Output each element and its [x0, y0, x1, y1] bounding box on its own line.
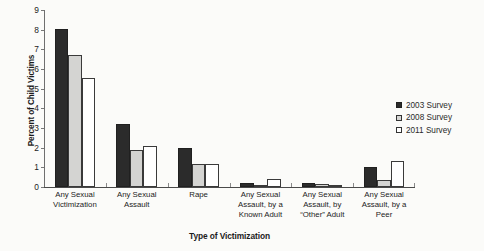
bar-group-0	[44, 10, 106, 187]
x-axis-line	[44, 187, 415, 188]
bar-2003-survey-3	[240, 183, 254, 187]
y-tick-label-8: 8	[23, 26, 39, 34]
bar-2011-survey-4	[329, 185, 343, 187]
category-label-4: Any SexualAssault, by“Other” Adult	[291, 190, 353, 220]
bar-2008-survey-2	[192, 164, 206, 187]
bar-group-2	[168, 10, 230, 187]
category-label-line: Any Sexual	[291, 190, 353, 200]
bar-2011-survey-5	[391, 161, 405, 187]
category-label-line: Victimization	[44, 200, 106, 210]
bar-group-4	[291, 10, 353, 187]
bar-group-3	[230, 10, 292, 187]
y-tick-label-1: 1	[23, 163, 39, 171]
y-axis-title: Percent of Child Victims	[27, 16, 36, 186]
category-label-line: Peer	[353, 210, 415, 220]
bar-2003-survey-2	[178, 148, 192, 187]
y-tick-label-6: 6	[23, 65, 39, 73]
category-label-line: Any Sexual	[230, 190, 292, 200]
legend-label-2: 2011 Survey	[406, 126, 451, 135]
bar-2008-survey-0	[68, 55, 82, 187]
bar-2008-survey-4	[315, 184, 329, 187]
y-tick-label-7: 7	[23, 45, 39, 53]
bar-group-1	[106, 10, 168, 187]
category-label-line: Any Sexual	[44, 190, 106, 200]
category-label-line: Any Sexual	[353, 190, 415, 200]
group-separator-2	[168, 183, 169, 187]
category-label-line: “Other” Adult	[291, 210, 353, 220]
legend-label-0: 2003 Survey	[406, 101, 452, 110]
y-tick-label-2: 2	[23, 144, 39, 152]
legend-item-2: 2011 Survey	[396, 124, 484, 136]
bar-2003-survey-0	[55, 29, 69, 187]
group-separator-3	[230, 183, 231, 187]
bar-2008-survey-3	[254, 185, 268, 187]
bars-layer	[44, 10, 415, 187]
legend-item-0: 2003 Survey	[396, 99, 484, 111]
group-separator-5	[353, 183, 354, 187]
chart-legend: 2003 Survey2008 Survey2011 Survey	[396, 99, 484, 137]
y-tick-label-0: 0	[23, 183, 39, 191]
bar-2011-survey-1	[143, 146, 157, 187]
y-tick-mark-0	[41, 187, 44, 188]
filled-gray-square-icon	[396, 115, 402, 121]
y-tick-label-9: 9	[23, 6, 39, 14]
y-tick-label-5: 5	[23, 85, 39, 93]
y-tick-label-4: 4	[23, 104, 39, 112]
bar-2011-survey-0	[82, 78, 96, 187]
category-label-line: Known Adult	[230, 210, 292, 220]
category-label-3: Any SexualAssault, by aKnown Adult	[230, 190, 292, 220]
bar-2011-survey-3	[267, 179, 281, 187]
bar-2003-survey-5	[364, 167, 378, 187]
category-label-line: Any Sexual	[106, 190, 168, 200]
legend-item-1: 2008 Survey	[396, 112, 484, 124]
group-separator-4	[291, 183, 292, 187]
category-label-line: Assault, by a	[353, 200, 415, 210]
group-separator-end	[414, 183, 415, 187]
bar-2008-survey-1	[130, 150, 144, 187]
bar-chart-figure: Percent of Child Victims 0123456789 Any …	[0, 0, 484, 251]
category-label-2: Rape	[168, 190, 230, 200]
plot-area: 0123456789	[44, 10, 415, 187]
bar-2011-survey-2	[205, 164, 219, 187]
outline-white-square-icon	[396, 127, 402, 133]
x-axis-category-labels: Any SexualVictimizationAny SexualAssault…	[44, 190, 415, 230]
category-label-line: Assault, by	[291, 200, 353, 210]
group-separator-1	[106, 183, 107, 187]
bar-2003-survey-4	[302, 183, 316, 187]
category-label-5: Any SexualAssault, by aPeer	[353, 190, 415, 220]
filled-black-square-icon	[396, 102, 402, 108]
category-label-1: Any SexualAssault	[106, 190, 168, 210]
legend-label-1: 2008 Survey	[406, 113, 452, 122]
x-axis-title: Type of Victimization	[44, 231, 415, 241]
category-label-line: Assault	[106, 200, 168, 210]
category-label-0: Any SexualVictimization	[44, 190, 106, 210]
category-label-line: Rape	[168, 190, 230, 200]
category-label-line: Assault, by a	[230, 200, 292, 210]
bar-2008-survey-5	[377, 180, 391, 187]
bar-2003-survey-1	[116, 124, 130, 187]
y-tick-label-3: 3	[23, 124, 39, 132]
